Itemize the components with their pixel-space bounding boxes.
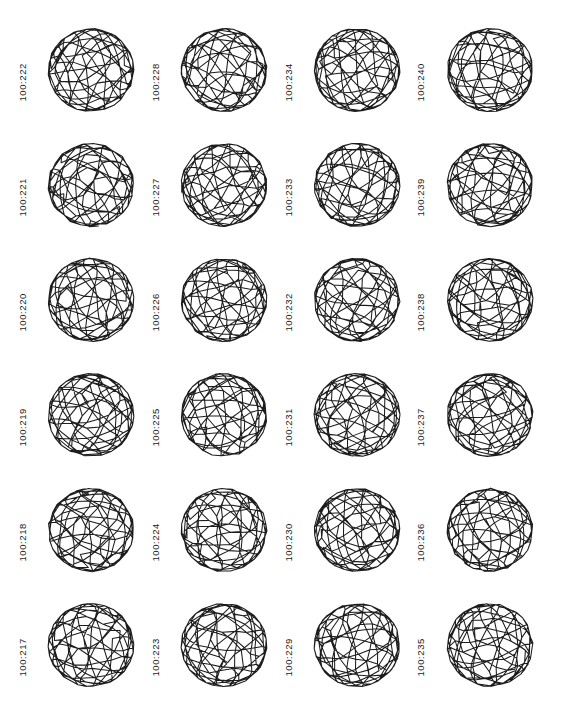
isomer-cell: 100:232 <box>284 242 417 357</box>
fullerene-plate: 100:222100:228100:234100:240100:221100:2… <box>0 0 567 714</box>
isomer-cell: 100:222 <box>18 12 151 127</box>
isomer-cell: 100:226 <box>151 242 284 357</box>
isomer-label: 100:239 <box>416 178 430 217</box>
isomer-cell: 100:227 <box>151 127 284 242</box>
isomer-label: 100:218 <box>18 523 32 562</box>
isomer-cell: 100:224 <box>151 472 284 587</box>
isomer-label: 100:224 <box>151 523 165 562</box>
isomer-label: 100:240 <box>416 63 430 102</box>
isomer-cell: 100:240 <box>416 12 549 127</box>
isomer-label: 100:229 <box>284 638 298 677</box>
isomer-cell: 100:231 <box>284 357 417 472</box>
fullerene-cage-diagram <box>430 242 549 357</box>
fullerene-cage-diagram <box>430 357 549 472</box>
isomer-cell: 100:219 <box>18 357 151 472</box>
isomer-label: 100:220 <box>18 293 32 332</box>
isomer-label: 100:234 <box>284 63 298 102</box>
fullerene-cage-diagram <box>298 357 417 472</box>
isomer-cell: 100:217 <box>18 587 151 702</box>
fullerene-cage-diagram <box>32 357 151 472</box>
fullerene-cage-diagram <box>165 357 284 472</box>
isomer-label: 100:233 <box>284 178 298 217</box>
fullerene-cage-diagram <box>298 587 417 702</box>
isomer-label: 100:221 <box>18 178 32 217</box>
isomer-cell: 100:225 <box>151 357 284 472</box>
fullerene-cage-diagram <box>32 472 151 587</box>
isomer-cell: 100:238 <box>416 242 549 357</box>
isomer-label: 100:219 <box>18 408 32 447</box>
fullerene-cage-diagram <box>165 472 284 587</box>
isomer-label: 100:226 <box>151 293 165 332</box>
fullerene-cage-diagram <box>298 472 417 587</box>
fullerene-cage-diagram <box>32 587 151 702</box>
isomer-label: 100:222 <box>18 63 32 102</box>
isomer-label: 100:236 <box>416 523 430 562</box>
isomer-label: 100:223 <box>151 638 165 677</box>
isomer-cell: 100:229 <box>284 587 417 702</box>
isomer-label: 100:232 <box>284 293 298 332</box>
fullerene-cage-diagram <box>32 127 151 242</box>
fullerene-cage-diagram <box>430 472 549 587</box>
isomer-cell: 100:220 <box>18 242 151 357</box>
isomer-cell: 100:221 <box>18 127 151 242</box>
fullerene-cage-diagram <box>430 127 549 242</box>
isomer-cell: 100:237 <box>416 357 549 472</box>
fullerene-cage-diagram <box>298 127 417 242</box>
isomer-label: 100:228 <box>151 63 165 102</box>
isomer-label: 100:237 <box>416 408 430 447</box>
isomer-label: 100:217 <box>18 638 32 677</box>
isomer-cell: 100:233 <box>284 127 417 242</box>
isomer-label: 100:235 <box>416 638 430 677</box>
isomer-grid: 100:222100:228100:234100:240100:221100:2… <box>18 12 549 702</box>
isomer-label: 100:231 <box>284 408 298 447</box>
isomer-cell: 100:218 <box>18 472 151 587</box>
isomer-cell: 100:235 <box>416 587 549 702</box>
isomer-label: 100:230 <box>284 523 298 562</box>
isomer-label: 100:225 <box>151 408 165 447</box>
isomer-label: 100:238 <box>416 293 430 332</box>
fullerene-cage-diagram <box>430 12 549 127</box>
fullerene-cage-diagram <box>165 127 284 242</box>
isomer-cell: 100:236 <box>416 472 549 587</box>
isomer-cell: 100:228 <box>151 12 284 127</box>
fullerene-cage-diagram <box>430 587 549 702</box>
isomer-cell: 100:239 <box>416 127 549 242</box>
fullerene-cage-diagram <box>165 12 284 127</box>
fullerene-cage-diagram <box>165 242 284 357</box>
isomer-cell: 100:223 <box>151 587 284 702</box>
fullerene-cage-diagram <box>298 242 417 357</box>
isomer-cell: 100:230 <box>284 472 417 587</box>
fullerene-cage-diagram <box>298 12 417 127</box>
isomer-label: 100:227 <box>151 178 165 217</box>
fullerene-cage-diagram <box>32 242 151 357</box>
isomer-cell: 100:234 <box>284 12 417 127</box>
fullerene-cage-diagram <box>165 587 284 702</box>
fullerene-cage-diagram <box>32 12 151 127</box>
